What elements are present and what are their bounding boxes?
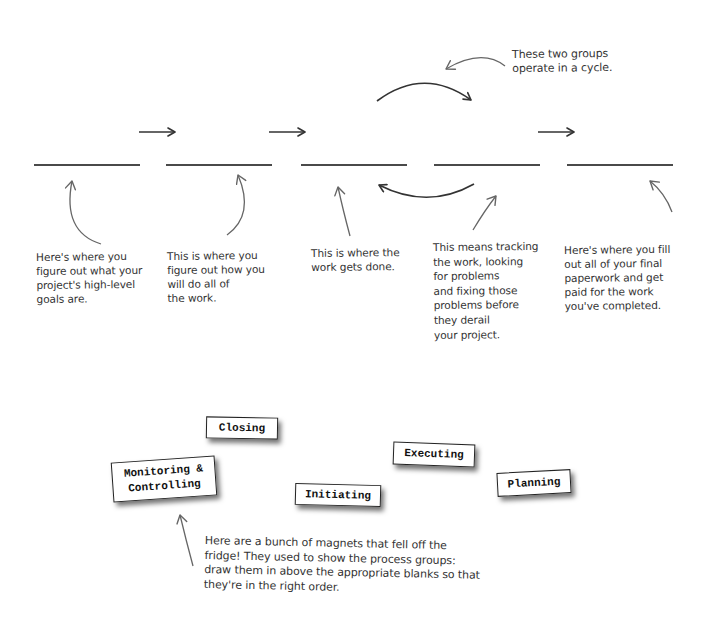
answer-blank-5[interactable] [567, 164, 673, 166]
magnet-closing[interactable]: Closing [206, 416, 278, 439]
description-pointer-4-icon [473, 196, 496, 230]
description-planning: This is where you figure out how you wil… [167, 248, 265, 305]
description-pointer-3-icon [338, 187, 350, 236]
description-initiating: Here's where you figure out what your pr… [36, 249, 143, 306]
magnet-executing[interactable]: Executing [393, 442, 476, 468]
answer-blank-4[interactable] [434, 164, 540, 166]
answer-blank-1[interactable] [34, 164, 140, 166]
magnet-initiating[interactable]: Initiating [295, 483, 382, 507]
process-groups-exercise: These two groups operate in a cycle. Her… [0, 0, 706, 624]
description-pointer-2-icon [227, 175, 244, 235]
description-pointer-1-icon [70, 181, 101, 244]
cycle-arrow-back-icon [379, 184, 474, 197]
cycle-note: These two groups operate in a cycle. [512, 47, 612, 76]
cycle-note-pointer-icon [446, 58, 505, 69]
answer-blank-3[interactable] [301, 164, 407, 166]
description-closing: Here's where you fill out all of your fi… [564, 242, 671, 313]
instructions: Here are a bunch of magnets that fell of… [204, 534, 481, 598]
magnet-monitoring-controlling[interactable]: Monitoring & Controlling [111, 455, 218, 502]
magnet-planning[interactable]: Planning [496, 469, 571, 497]
instructions-pointer-icon [180, 515, 193, 566]
description-monitoring: This means tracking the work, looking fo… [433, 239, 539, 342]
cycle-arrow-forward-icon [377, 83, 471, 101]
description-pointer-5-icon [650, 181, 672, 212]
description-executing: This is where the work gets done. [311, 245, 400, 274]
answer-blank-2[interactable] [166, 164, 272, 166]
